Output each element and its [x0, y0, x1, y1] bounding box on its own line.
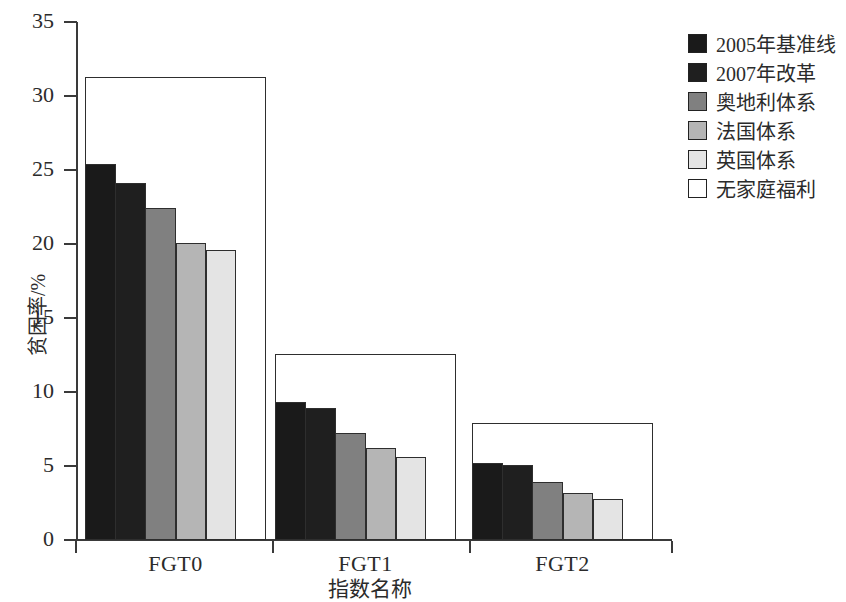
- bar-fgt2-series-3: [532, 482, 563, 540]
- legend-swatch-icon: [688, 92, 707, 111]
- chart-legend: 2005年基准线2007年改革奥地利体系法国体系英国体系无家庭福利: [688, 29, 846, 203]
- y-tick-label: 20: [0, 232, 54, 254]
- bar-fgt0-series-5: [206, 250, 237, 540]
- legend-item-1: 2005年基准线: [688, 29, 846, 58]
- bar-fgt1-series-1: [275, 402, 306, 540]
- bar-fgt2-series-5: [593, 499, 624, 540]
- bar-fgt0-series-4: [176, 243, 207, 540]
- y-axis-label-container: 贫困率/%: [0, 180, 26, 360]
- bar-fgt0-series-1: [85, 164, 116, 540]
- x-tick-mark: [671, 541, 673, 553]
- plot-bars-layer: [76, 22, 672, 540]
- legend-item-4: 法国体系: [688, 116, 846, 145]
- legend-swatch-icon: [688, 150, 707, 169]
- y-tick-label: 15: [0, 306, 54, 328]
- legend-item-3: 奥地利体系: [688, 87, 846, 116]
- x-tick-mark: [272, 541, 274, 553]
- bar-fgt0-series-3: [145, 208, 176, 540]
- legend-label: 2007年改革: [716, 58, 816, 87]
- legend-item-5: 英国体系: [688, 145, 846, 174]
- bar-fgt2-series-2: [502, 465, 533, 540]
- legend-swatch-icon: [688, 63, 707, 82]
- legend-item-6: 无家庭福利: [688, 174, 846, 203]
- bar-group-fgt0: [85, 22, 266, 540]
- legend-label: 英国体系: [716, 145, 796, 174]
- y-tick-label: 30: [0, 84, 54, 106]
- bar-fgt1-series-5: [396, 457, 427, 540]
- legend-label: 法国体系: [716, 116, 796, 145]
- y-tick-label: 35: [0, 10, 54, 32]
- bar-fgt2-series-4: [563, 493, 594, 540]
- y-tick-label: 10: [0, 380, 54, 402]
- legend-label: 2005年基准线: [716, 29, 836, 58]
- x-axis-label: 指数名称: [0, 572, 740, 602]
- legend-swatch-icon: [688, 121, 707, 140]
- x-tick-mark: [75, 541, 77, 553]
- x-tick-mark: [469, 541, 471, 553]
- legend-item-2: 2007年改革: [688, 58, 846, 87]
- bar-fgt1-series-2: [305, 408, 336, 540]
- legend-label: 无家庭福利: [716, 174, 816, 203]
- bar-fgt1-series-4: [366, 448, 397, 540]
- y-tick-label: 0: [0, 528, 54, 550]
- legend-label: 奥地利体系: [716, 87, 816, 116]
- legend-swatch-icon: [688, 34, 707, 53]
- y-tick-label: 25: [0, 158, 54, 180]
- legend-swatch-icon: [688, 179, 707, 198]
- y-tick-label: 5: [0, 454, 54, 476]
- bar-fgt1-series-3: [335, 433, 366, 540]
- bar-fgt2-series-1: [472, 463, 503, 540]
- bar-group-fgt1: [275, 22, 456, 540]
- bar-fgt0-series-2: [115, 183, 146, 540]
- bar-group-fgt2: [472, 22, 653, 540]
